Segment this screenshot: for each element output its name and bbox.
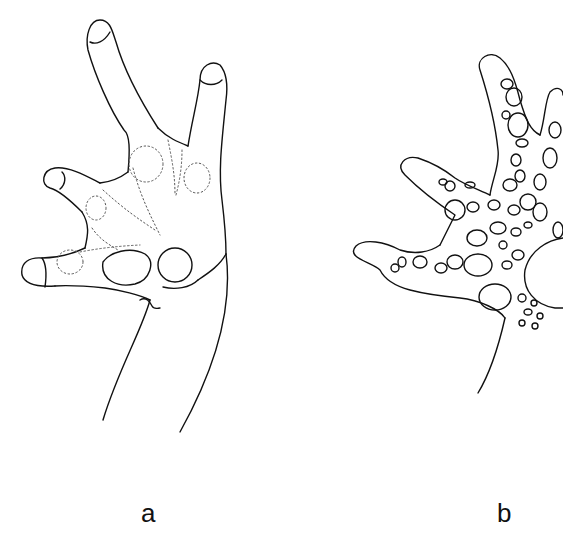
panel-label-b: b [497,500,511,526]
hand-outline-a-icon [0,0,290,470]
panel-label-a: a [141,500,155,526]
hand-outline-b-icon [330,0,563,470]
panel-a-hand-drawing [0,0,290,470]
panel-b-hand-drawing [330,0,563,470]
